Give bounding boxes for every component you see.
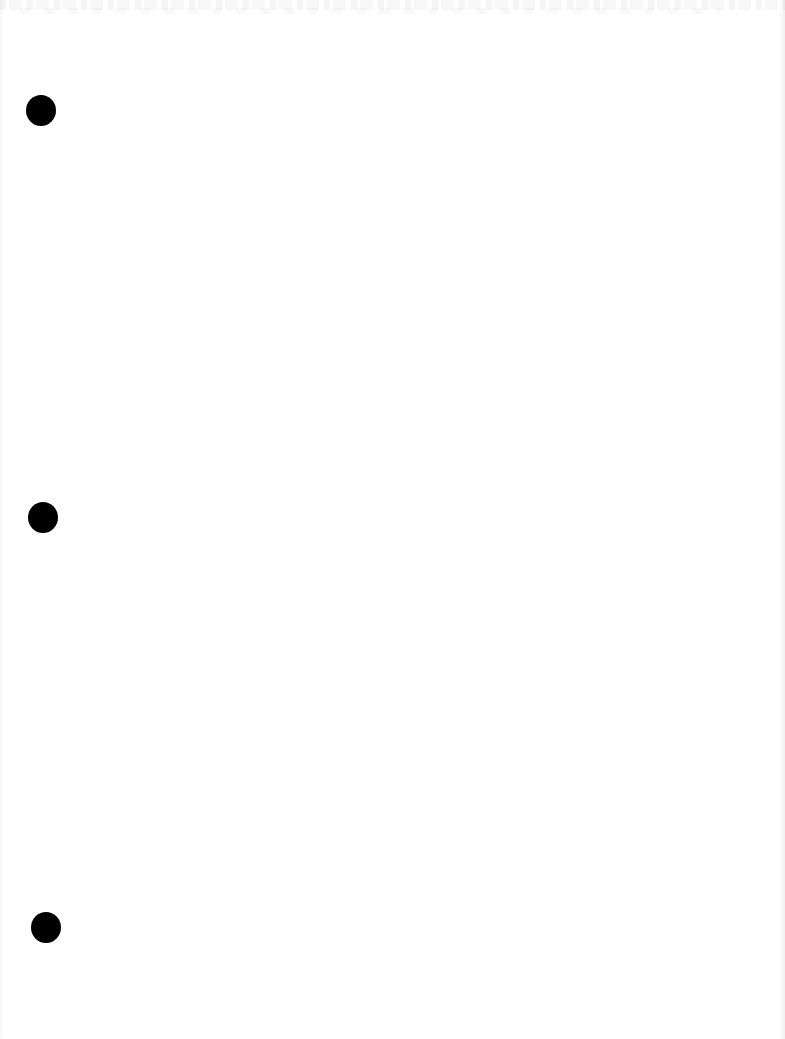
- left-edge-shadow: [0, 0, 4, 1039]
- punch-hole-middle: [28, 502, 58, 533]
- scanned-page: [0, 0, 785, 1039]
- punch-hole-bottom: [31, 912, 61, 943]
- top-edge-bleed-through-secondary: [20, 8, 720, 14]
- punch-hole-top: [26, 95, 56, 126]
- right-edge-shadow: [779, 0, 785, 1039]
